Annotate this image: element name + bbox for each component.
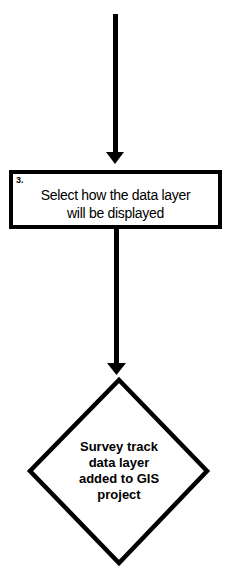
result-text-line-3: added to GIS	[62, 471, 176, 487]
connector-arrow-shaft	[114, 228, 119, 365]
step-3-box: 3. Select how the data layer will be dis…	[9, 170, 222, 229]
incoming-arrow	[106, 14, 124, 164]
step-3-text: Select how the data layer will be displa…	[13, 186, 218, 222]
result-text-line-2: data layer	[62, 455, 176, 471]
step-number: 3.	[16, 175, 24, 185]
result-text-line-4: project	[62, 487, 176, 503]
step-3-text-line-2: will be displayed	[13, 204, 218, 222]
incoming-arrow-shaft	[113, 14, 118, 154]
incoming-arrow-head-icon	[106, 152, 124, 164]
flowchart-canvas: 3. Select how the data layer will be dis…	[0, 0, 229, 573]
connector-arrow	[107, 228, 126, 375]
step-3-text-line-1: Select how the data layer	[13, 186, 218, 204]
result-diamond-text: Survey track data layer added to GIS pro…	[62, 439, 176, 503]
connector-arrow-head-icon	[107, 363, 126, 375]
result-text-line-1: Survey track	[62, 439, 176, 455]
